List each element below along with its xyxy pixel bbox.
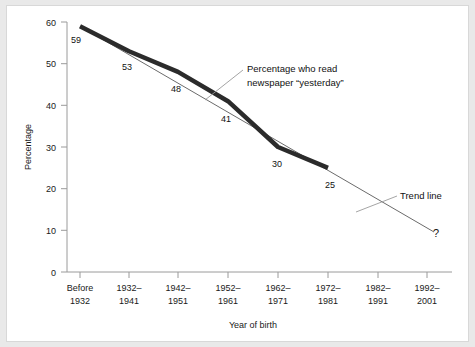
y-tick-label-10: 10 xyxy=(46,226,56,236)
chart-screenshot: 60 50 40 30 20 10 0 Percentage Before 19… xyxy=(0,0,475,347)
x-tick-label-1-line1: 1932– xyxy=(116,283,141,293)
data-label-2: 48 xyxy=(171,84,181,94)
series-annotation-line2: newspaper “yesterday” xyxy=(247,77,344,88)
series-annotation-leader-line xyxy=(205,70,243,100)
x-tick-label-5-line2: 1981 xyxy=(318,296,338,306)
y-tick-label-30: 30 xyxy=(46,143,56,153)
x-tick-label-0-line2: 1932 xyxy=(70,296,90,306)
data-value-labels: 59 53 48 41 30 25 xyxy=(71,35,335,190)
y-tick-label-40: 40 xyxy=(46,101,56,111)
y-axis-title: Percentage xyxy=(23,124,33,170)
x-axis-ticks xyxy=(80,272,427,278)
data-label-3: 41 xyxy=(221,114,231,124)
trend-annotation-label: Trend line xyxy=(400,190,442,201)
data-label-4: 30 xyxy=(272,159,282,169)
x-tick-label-5-line1: 1972– xyxy=(315,283,340,293)
y-axis-ticks xyxy=(61,22,67,272)
x-tick-label-4-line1: 1962– xyxy=(265,283,290,293)
y-tick-label-20: 20 xyxy=(46,184,56,194)
y-tick-label-50: 50 xyxy=(46,59,56,69)
x-tick-label-1-line2: 1941 xyxy=(119,296,139,306)
x-tick-label-4-line2: 1971 xyxy=(268,296,288,306)
data-label-5: 25 xyxy=(325,180,335,190)
x-tick-label-3-line1: 1952– xyxy=(215,283,240,293)
data-label-1: 53 xyxy=(122,62,132,72)
line-chart: 60 50 40 30 20 10 0 Percentage Before 19… xyxy=(0,0,475,347)
y-tick-label-60: 60 xyxy=(46,18,56,28)
series-line-newspaper-readership xyxy=(80,26,328,168)
data-label-0: 59 xyxy=(71,35,81,45)
x-axis-tick-labels: Before 1932 1932– 1941 1942– 1951 1952– … xyxy=(67,283,440,306)
x-tick-label-6-line2: 1991 xyxy=(368,296,388,306)
x-tick-label-0-line1: Before xyxy=(67,283,94,293)
y-tick-label-0: 0 xyxy=(51,268,56,278)
x-tick-label-3-line2: 1961 xyxy=(218,296,238,306)
series-annotation-line1: Percentage who read xyxy=(247,63,337,74)
x-tick-label-2-line1: 1942– xyxy=(165,283,190,293)
x-tick-label-7-line1: 1992– xyxy=(414,283,439,293)
unknown-endpoint-label: ? xyxy=(433,227,439,239)
x-tick-label-7-line2: 2001 xyxy=(417,296,437,306)
x-tick-label-2-line2: 1951 xyxy=(168,296,188,306)
x-tick-label-6-line1: 1982– xyxy=(365,283,390,293)
y-axis-tick-labels: 60 50 40 30 20 10 0 xyxy=(46,18,56,278)
x-axis-title: Year of birth xyxy=(229,320,277,330)
